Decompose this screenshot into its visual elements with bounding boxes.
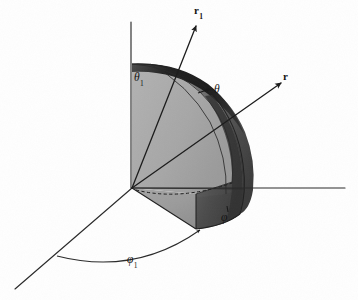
label-vector-r1-subscript: 1 — [199, 12, 203, 21]
label-angle-phi1-subscript: 1 — [134, 261, 138, 270]
label-angle-theta1-subscript: 1 — [140, 79, 144, 88]
label-angle-theta: θ — [214, 84, 220, 96]
label-angle-theta1-symbol: θ — [134, 71, 140, 83]
label-vector-r-symbol: r — [283, 70, 288, 82]
figure-canvas — [0, 0, 358, 300]
label-angle-theta1: θ1 — [134, 72, 143, 86]
label-vector-r: r — [283, 71, 288, 82]
label-vector-r1: r1 — [194, 5, 203, 19]
label-angle-phi-symbol: φ — [221, 211, 227, 223]
spherical-coordinate-figure: r1 r θ1 θ φ φ1 — [0, 0, 358, 300]
label-angle-phi1-symbol: φ — [127, 253, 133, 265]
label-angle-phi1: φ1 — [127, 254, 137, 268]
label-angle-theta-symbol: θ — [214, 83, 220, 95]
label-angle-phi: φ — [221, 212, 227, 224]
